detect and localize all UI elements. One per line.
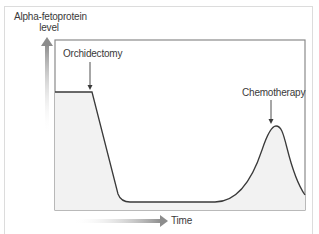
afp-diagram bbox=[0, 0, 319, 234]
y-axis-label-line1: Alpha-fetoprotein bbox=[14, 11, 84, 22]
y-axis-label: Alpha-fetoprotein level bbox=[14, 11, 84, 33]
y-axis-arrow-icon bbox=[41, 37, 53, 134]
x-axis-arrow-icon bbox=[72, 215, 168, 227]
orchidectomy-label: Orchidectomy bbox=[63, 48, 122, 59]
y-axis-label-line2: level bbox=[14, 22, 84, 33]
chemotherapy-label: Chemotherapy bbox=[242, 87, 305, 98]
x-axis-label: Time bbox=[171, 215, 192, 226]
